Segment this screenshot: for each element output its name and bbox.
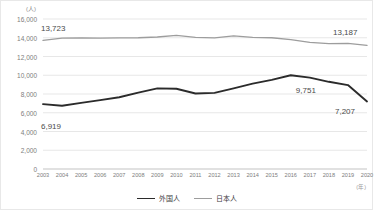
y-axis-tick-label: 4,000 [7, 128, 37, 135]
x-axis-tick-label: 2015 [265, 172, 277, 178]
x-axis-tick-label: 2016 [285, 172, 297, 178]
x-axis-tick-label: 2013 [227, 172, 239, 178]
x-axis-tick-label: 2012 [208, 172, 220, 178]
legend-label: 外国人 [159, 193, 180, 203]
x-axis-tick-label: 2011 [189, 172, 201, 178]
legend-swatch-icon [194, 198, 212, 199]
series-line [43, 75, 367, 105]
x-axis-tick-label: 2010 [170, 172, 182, 178]
y-axis-tick-label: 0 [7, 166, 37, 173]
series-line [43, 35, 367, 45]
data-point-label: 6,919 [41, 122, 61, 131]
legend-item-japanese[interactable]: 日本人 [194, 193, 237, 203]
data-point-label: 7,207 [335, 107, 355, 116]
x-axis-tick-label: 2006 [94, 172, 106, 178]
y-axis-tick-label: 16,000 [7, 16, 37, 23]
legend-item-foreigners[interactable]: 外国人 [137, 193, 180, 203]
y-axis-tick-label: 12,000 [7, 53, 37, 60]
y-axis-tick-label: 6,000 [7, 109, 37, 116]
legend-swatch-icon [137, 198, 155, 199]
chart-legend: 外国人 日本人 [1, 193, 372, 203]
x-axis-unit-label: (年) [356, 183, 366, 191]
data-point-label: 13,187 [333, 28, 357, 37]
y-axis-tick-label: 8,000 [7, 91, 37, 98]
data-point-label: 9,751 [296, 86, 316, 95]
y-axis-tick-label: 2,000 [7, 147, 37, 154]
x-axis-tick-label: 2007 [113, 172, 125, 178]
x-axis-tick-label: 2020 [361, 172, 373, 178]
x-axis-tick-label: 2018 [323, 172, 335, 178]
y-axis-tick-label: 14,000 [7, 34, 37, 41]
series-lines [43, 35, 367, 105]
data-point-label: 13,723 [41, 24, 65, 33]
x-axis-tick-label: 2003 [37, 172, 49, 178]
y-axis-tick-label: 10,000 [7, 72, 37, 79]
x-axis-tick-label: 2019 [342, 172, 354, 178]
legend-label: 日本人 [216, 193, 237, 203]
x-axis-tick-label: 2017 [304, 172, 316, 178]
x-axis-tick-label: 2008 [132, 172, 144, 178]
x-axis-tick-label: 2004 [56, 172, 68, 178]
x-axis-tick-label: 2009 [151, 172, 163, 178]
x-axis-tick-label: 2014 [246, 172, 258, 178]
x-axis-tick-label: 2005 [75, 172, 87, 178]
